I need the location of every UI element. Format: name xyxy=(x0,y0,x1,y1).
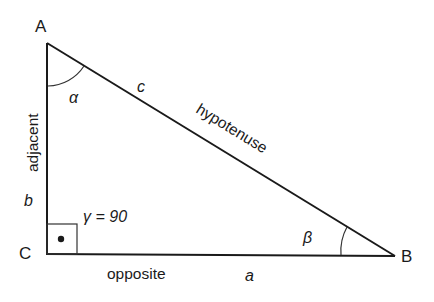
angle-gamma-label: γ = 90 xyxy=(83,208,127,225)
angle-alpha-label: α xyxy=(69,89,79,106)
side-c-letter: c xyxy=(137,78,145,95)
vertex-a-label: A xyxy=(35,17,47,36)
angle-beta-label: β xyxy=(302,229,312,246)
hypotenuse-label: hypotenuse xyxy=(193,100,270,156)
opposite-label: opposite xyxy=(107,265,166,282)
right-angle-dot xyxy=(58,236,64,242)
right-triangle-diagram: A C B α β γ = 90 c b a hypotenuse adjace… xyxy=(0,0,434,302)
angle-beta-arc xyxy=(341,227,347,255)
side-a-opposite-line xyxy=(46,254,395,256)
vertex-c-label: C xyxy=(19,244,31,263)
side-b-letter: b xyxy=(24,192,33,209)
side-a-letter: a xyxy=(245,267,254,284)
vertex-b-label: B xyxy=(401,247,412,266)
angle-alpha-arc xyxy=(48,66,84,86)
adjacent-label: adjacent xyxy=(24,113,41,172)
